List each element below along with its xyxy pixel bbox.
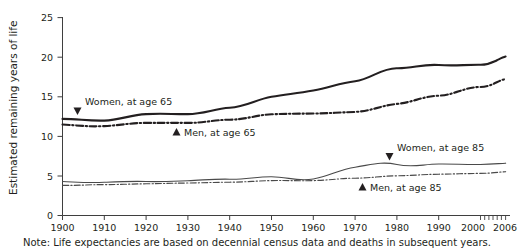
triangle-down-icon-women-65 [74, 108, 82, 116]
y-tick-label-10: 10 [41, 131, 53, 142]
x-tick-label-1910: 1910 [92, 222, 116, 233]
y-axis-title: Estimated remaining years of life [7, 21, 19, 195]
series-line-women-65 [63, 57, 506, 121]
triangle-up-icon-men-85 [359, 183, 367, 191]
y-axis-ticks: 25 20 15 10 5 0 [41, 12, 63, 221]
x-tick-label-1950: 1950 [259, 222, 283, 233]
series-women-age-65 [63, 57, 506, 121]
chart-figure: Estimated remaining years of life 25 20 … [0, 0, 523, 251]
y-tick-label-0: 0 [47, 210, 53, 221]
y-tick-label-25: 25 [41, 12, 53, 23]
x-tick-label-1900: 1900 [50, 222, 74, 233]
x-tick-label-1960: 1960 [301, 222, 325, 233]
series-line-women-85 [63, 163, 506, 182]
annotation-label-men-65: Men, at age 65 [184, 127, 255, 138]
x-tick-label-1940: 1940 [218, 222, 242, 233]
annotation-label-women-65: Women, at age 65 [85, 96, 172, 107]
triangle-up-icon-men-65 [173, 128, 181, 136]
annotation-label-men-85: Men, at age 85 [370, 182, 441, 193]
annotation-women-age-85: Women, at age 85 [386, 142, 485, 161]
life-expectancy-line-chart: Estimated remaining years of life 25 20 … [0, 0, 523, 251]
series-women-age-85 [63, 163, 506, 182]
annotation-label-women-85: Women, at age 85 [397, 142, 484, 153]
x-tick-label-1990: 1990 [427, 222, 451, 233]
y-tick-label-5: 5 [47, 171, 53, 182]
x-tick-label-1970: 1970 [343, 222, 367, 233]
y-tick-label-15: 15 [41, 91, 53, 102]
y-tick-label-20: 20 [41, 52, 53, 63]
annotation-men-age-65: Men, at age 65 [173, 127, 256, 138]
x-tick-label-2000: 2000 [461, 222, 485, 233]
x-tick-label-1980: 1980 [385, 222, 409, 233]
x-axis-ticks: 1900 1910 1920 1930 1940 1950 1960 1970 … [50, 216, 517, 234]
x-tick-label-1920: 1920 [134, 222, 158, 233]
x-tick-label-2006: 2006 [493, 222, 517, 233]
x-tick-label-1930: 1930 [176, 222, 200, 233]
annotation-men-age-85: Men, at age 85 [359, 182, 442, 193]
chart-note: Note: Life expectancies are based on dec… [23, 237, 491, 248]
triangle-down-icon-women-85 [386, 153, 394, 161]
annotation-women-age-65: Women, at age 65 [74, 96, 173, 115]
